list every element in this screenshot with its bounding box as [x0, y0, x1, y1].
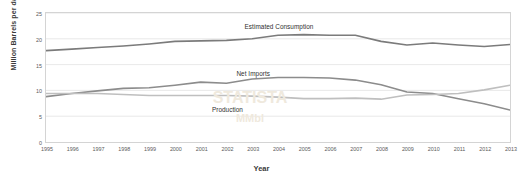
- y-axis-tick-label: 5: [39, 114, 42, 120]
- plot-svg: [46, 13, 510, 142]
- x-axis-tick-label: 2000: [170, 146, 182, 152]
- series-line: [46, 85, 510, 99]
- x-axis-tick-label: 2009: [402, 146, 414, 152]
- x-axis-tick-label: 1999: [144, 146, 156, 152]
- x-axis-tick-label: 2011: [454, 146, 466, 152]
- x-axis-tick-label: 2003: [247, 146, 259, 152]
- series-label: Production: [210, 105, 245, 112]
- x-axis-tick-label: 2010: [428, 146, 440, 152]
- x-axis-title: Year: [0, 164, 523, 173]
- x-axis-tick-label: 2005: [299, 146, 311, 152]
- series-label: Estimated Consumption: [243, 23, 316, 30]
- y-axis-tick-label: 15: [36, 63, 42, 69]
- x-axis-tick-label: 1998: [118, 146, 130, 152]
- x-axis-tick-label: 1995: [41, 146, 53, 152]
- x-axis-tick-label: 2008: [376, 146, 388, 152]
- series-line: [46, 35, 510, 51]
- x-axis-tick-label: 2004: [273, 146, 285, 152]
- x-axis-tick-label: 1996: [67, 146, 79, 152]
- line-chart: Million Barrels per day (MMbbl) 05101520…: [0, 0, 523, 182]
- y-axis-tick-label: 25: [36, 11, 42, 17]
- x-axis-tick-label: 2013: [505, 146, 517, 152]
- series-label: Net Imports: [234, 69, 272, 76]
- y-axis-title: Million Barrels per day (MMbbl): [10, 0, 24, 88]
- x-axis-tick-label: 2006: [325, 146, 337, 152]
- x-axis-tick-label: 2007: [350, 146, 362, 152]
- x-axis-tick-label: 2002: [221, 146, 233, 152]
- x-axis-tick-label: 2012: [479, 146, 491, 152]
- plot-area: 0510152025199519961997199819992000200120…: [45, 12, 511, 143]
- x-axis-tick-label: 2001: [196, 146, 208, 152]
- y-axis-tick-label: 10: [36, 88, 42, 94]
- x-axis-tick-label: 1997: [93, 146, 105, 152]
- y-axis-tick-label: 20: [36, 37, 42, 43]
